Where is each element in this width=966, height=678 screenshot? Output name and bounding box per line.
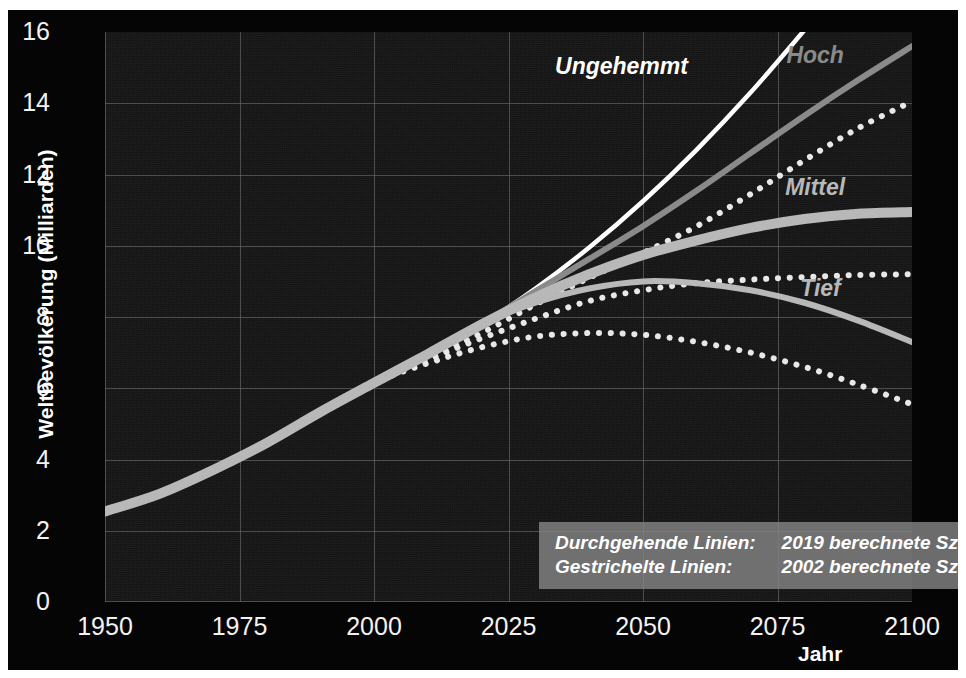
- x-axis-label: Jahr: [798, 642, 842, 666]
- curve-label-mittel: Mittel: [785, 174, 845, 201]
- curve-tief-2002: [105, 333, 912, 512]
- plot-area: UngehemmtHochMittelTief Durchgehende Lin…: [105, 32, 912, 602]
- legend-row-dotted: Gestrichelte Linien: 2002 berechnete Sze…: [555, 555, 958, 579]
- curve-label-hoch: Hoch: [786, 42, 844, 69]
- legend-solid-key: Durchgehende Linien:: [555, 531, 782, 555]
- curve-label-ungehemmt: Ungehemmt: [555, 53, 688, 80]
- x-tick-label: 2025: [439, 614, 579, 639]
- y-axis-label: Weltbevölkerung (Milliarden): [34, 34, 58, 554]
- legend-dotted-value: 2002 berechnete Szenarien: [782, 555, 958, 579]
- legend-solid-value: 2019 berechnete Szenarien: [782, 531, 958, 555]
- x-tick-label: 2050: [573, 614, 713, 639]
- x-tick-label: 2075: [708, 614, 848, 639]
- legend-dotted-key: Gestrichelte Linien:: [555, 555, 782, 579]
- x-tick-label: 1975: [170, 614, 310, 639]
- curve-label-tief: Tief: [800, 275, 840, 302]
- x-tick-label: 2100: [842, 614, 958, 639]
- chart-figure: 1614121086420 Weltbevölkerung (Milliarde…: [8, 10, 958, 670]
- curve-ungehemmt: [105, 30, 804, 511]
- curve-layer: [105, 32, 912, 602]
- curve-tief: [105, 281, 912, 511]
- legend-row-solid: Durchgehende Linien: 2019 berechnete Sze…: [555, 531, 958, 555]
- legend-box: Durchgehende Linien: 2019 berechnete Sze…: [539, 522, 958, 589]
- y-tick-label: 0: [8, 589, 50, 614]
- x-tick-label: 2000: [304, 614, 444, 639]
- x-tick-label: 1950: [35, 614, 175, 639]
